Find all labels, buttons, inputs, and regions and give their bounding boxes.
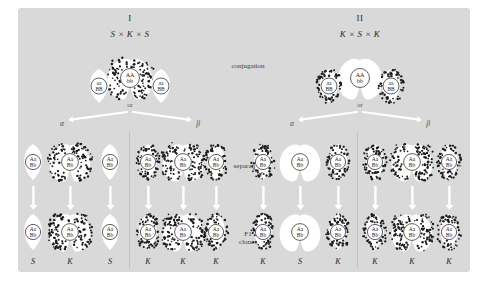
phenotype-label-p1-5: K	[180, 257, 185, 266]
nucleus-genotype-line2: Bb	[180, 232, 187, 238]
branch-arrow-beta-p2	[355, 104, 430, 128]
phenotype-label-p2-5: K	[409, 257, 414, 266]
nucleus-genotype-line2: bb	[127, 78, 133, 84]
phenotype-label-p2-3: K	[335, 257, 340, 266]
f1-clone-cell-p1-6: AaBb	[194, 204, 238, 260]
nucleus-genotype-line2: Bb	[213, 232, 220, 238]
panel-cross-1: S × K × S	[111, 29, 150, 39]
nucleus-genotype-line2: Bb	[107, 162, 114, 168]
nucleus-genotype-line2: Bb	[213, 162, 220, 168]
phenotype-label-p1-4: K	[145, 257, 150, 266]
phenotype-label-p2-1: K	[260, 257, 265, 266]
nucleus-genotype-line2: BB	[95, 86, 103, 92]
nucleus-genotype-line2: Bb	[446, 162, 453, 168]
separation-cell-p1-6: AaBb	[194, 134, 238, 190]
nucleus-genotype-line2: bb	[357, 78, 363, 84]
nucleus-genotype-line2: Bb	[180, 162, 187, 168]
phenotype-label-p1-3: S	[108, 257, 112, 266]
panel-roman-2: II	[357, 13, 364, 23]
nucleus-genotype-line2: Bb	[260, 232, 267, 238]
nucleus-genotype-line2: Bb	[145, 232, 152, 238]
phenotype-label-p1-1: S	[31, 257, 35, 266]
nucleus-genotype-line2: Bb	[67, 162, 74, 168]
branch-label-beta-p2: β	[426, 120, 430, 129]
nucleus-genotype-line2: BB	[325, 86, 333, 92]
nucleus-genotype-line2: Bb	[30, 232, 37, 238]
panel-roman-1: I	[128, 13, 132, 23]
nucleus-genotype-line2: Bb	[107, 232, 114, 238]
nucleus-genotype-line2: Bb	[297, 162, 304, 168]
f1-clone-cell-p2-6: AaBb	[427, 204, 471, 260]
branch-arrow-alpha-p2	[290, 104, 365, 128]
group-divider-p1	[129, 132, 130, 268]
branch-arrow-beta-p1	[125, 104, 200, 128]
panel-cross-2: K × S × K	[340, 29, 380, 39]
nucleus-genotype-line2: Bb	[372, 232, 379, 238]
nucleus-genotype-line2: Bb	[260, 162, 267, 168]
nucleus-genotype-line2: Bb	[297, 232, 304, 238]
separation-cell-p2-6: AaBb	[427, 134, 471, 190]
nucleus-genotype-line2: Bb	[409, 232, 416, 238]
label-conjugation: conjugation	[231, 62, 264, 70]
nucleus-genotype-line2: Bb	[446, 232, 453, 238]
figure-root: conjugationseparationF1clonesIS × K × SA…	[0, 0, 495, 293]
phenotype-label-p2-2: S	[298, 257, 302, 266]
nucleus-genotype-line2: BB	[387, 86, 395, 92]
phenotype-label-p2-4: K	[372, 257, 377, 266]
branch-arrow-alpha-p1	[60, 104, 135, 128]
nucleus-genotype-line2: Bb	[67, 232, 74, 238]
nucleus-genotype-line2: Bb	[372, 162, 379, 168]
branch-label-beta-p1: β	[196, 120, 200, 129]
nucleus-genotype-line2: Bb	[30, 162, 37, 168]
phenotype-label-p1-6: K	[213, 257, 218, 266]
branch-label-alpha-p2: α	[290, 120, 294, 129]
nucleus-genotype-line2: Bb	[145, 162, 152, 168]
phenotype-label-p1-2: K	[67, 257, 72, 266]
nucleus-genotype-line2: Bb	[335, 232, 342, 238]
group-divider-p2	[357, 132, 358, 268]
branch-label-alpha-p1: α	[60, 120, 64, 129]
nucleus-genotype-line2: Bb	[409, 162, 416, 168]
nucleus-genotype-line2: BB	[157, 86, 165, 92]
nucleus-genotype-line2: Bb	[335, 162, 342, 168]
phenotype-label-p2-6: K	[446, 257, 451, 266]
